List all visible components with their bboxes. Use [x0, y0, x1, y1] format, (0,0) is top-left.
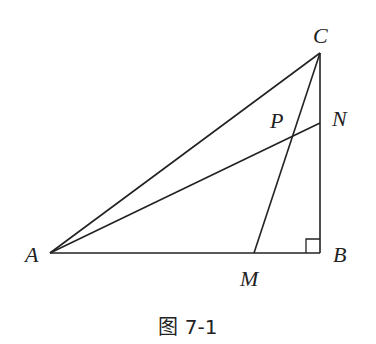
label-m: M [239, 266, 260, 291]
label-b: B [333, 242, 346, 267]
label-p: P [269, 108, 283, 133]
label-c: C [313, 23, 328, 48]
segment-an [50, 123, 320, 253]
label-n: N [331, 106, 348, 131]
segment-ca [50, 53, 320, 253]
segment-cm [254, 53, 320, 253]
right-angle-marker [306, 239, 320, 253]
geometry-figure: C N P A B M 图 7-1 [0, 0, 376, 344]
label-a: A [23, 242, 39, 267]
figure-caption: 图 7-1 [158, 315, 217, 339]
